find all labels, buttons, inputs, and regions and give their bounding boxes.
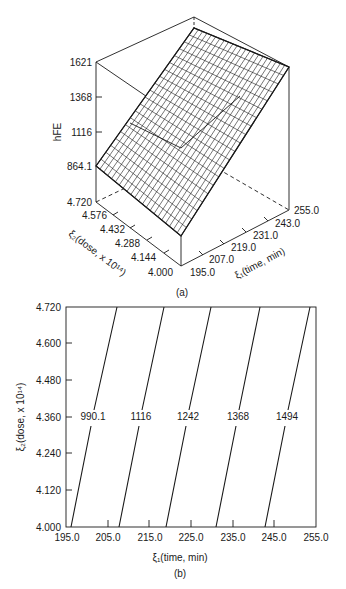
contour-label: 1116 [131,411,152,422]
contour-label: 1242 [177,411,200,422]
y-axis-label: ξ₂(dose, x 10¹⁴) [15,383,27,452]
x-tick-label: 225.0 [178,532,203,543]
dose-tick [147,237,152,240]
x-axis-label: ξ₁(time, min) [152,552,207,564]
y-tick-label: 4.360 [36,412,61,423]
time-tick [199,251,203,255]
z-tick-label: 1368 [70,92,93,103]
contour-label: 1368 [227,411,250,422]
time-tick [220,240,224,244]
dose-tick-label: 4.432 [100,224,125,235]
dose-tick [130,225,135,228]
dose-tick [113,212,118,215]
time-tick [242,228,246,232]
time-tick-label: 231.0 [253,230,278,241]
dose-tick-label: 4.720 [67,197,92,208]
y-tick-label: 4.480 [36,375,61,386]
y-tick-label: 4.120 [36,485,61,496]
dose-tick-label: 4.000 [148,267,173,278]
dose-tick [164,250,169,253]
time-tick-label: 255.0 [294,205,319,216]
z-tick-label: 1621 [70,57,93,68]
y-tick-label: 4.720 [36,302,61,313]
contour-level-labels: 990.1 1116 1242 1368 1494 [80,411,298,422]
time-tick-label: 195.0 [190,267,215,278]
response-surface-mesh [96,28,289,236]
x-tick-label: 255.0 [303,532,328,543]
z-tick-label: 864.1 [67,161,92,172]
contour-label: 990.1 [80,411,105,422]
dose-tick-label: 4.288 [115,238,140,249]
time-tick-label: 243.0 [275,218,300,229]
contour-label: 1494 [276,411,299,422]
y-tick-label: 4.600 [36,338,61,349]
x-tick-label: 245.0 [261,532,286,543]
panel-b-caption: (b) [174,568,186,579]
z-axis-label: hFE [52,123,63,142]
x-tick-label: 205.0 [95,532,120,543]
time-tick [264,217,268,221]
x-tick-label: 215.0 [137,532,162,543]
x-tick-label: 235.0 [220,532,245,543]
panel-a-caption: (a) [176,287,188,298]
z-tick-label: 1116 [71,127,92,138]
x-tick-label: 195.0 [54,532,79,543]
dose-axis-label: ξ₂(dose, x 10¹⁴) [66,228,128,279]
figure: 1621 1368 1116 864.1 hFE 4.720 4.576 4.4… [0,0,346,589]
time-tick-label: 207.0 [209,254,234,265]
y-tick-label: 4.240 [36,448,61,459]
dose-tick-label: 4.576 [82,210,107,221]
time-tick-label: 219.0 [231,242,256,253]
dose-tick-label: 4.144 [131,252,156,263]
